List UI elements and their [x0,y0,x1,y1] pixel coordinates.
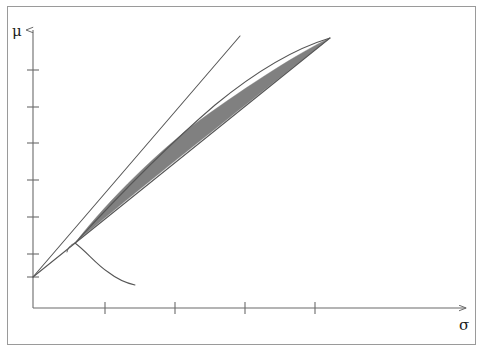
capital-market-line-steep [33,36,240,277]
y-axis-label: μ [12,24,22,39]
tangent-line-shallow [33,38,330,277]
plot-canvas [0,0,483,354]
figure-root: μ σ [0,0,483,354]
x-axis-label: σ [459,318,469,333]
axis-group [33,30,466,308]
minimum-variance-frontier-lower-branch [75,243,135,285]
